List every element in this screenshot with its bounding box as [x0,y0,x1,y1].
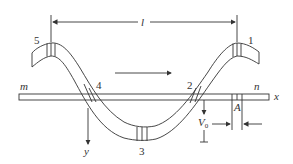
label-point-1: 1 [248,34,254,46]
rod [19,94,269,100]
wave-band [32,43,259,141]
label-x-axis: x [273,90,279,102]
label-point-5: 5 [34,34,40,46]
wavelength-dimension: l [51,15,237,42]
label-rod-m: m [20,80,28,92]
label-velocity: V0 [198,116,209,130]
label-section-a: A [233,101,241,113]
label-y-axis: y [83,145,89,157]
wave-diagram: l [0,0,293,164]
label-point-4: 4 [96,79,102,91]
label-point-2: 2 [187,79,193,91]
label-rod-n: n [254,80,260,92]
label-point-3: 3 [139,145,145,157]
wavelength-label: l [141,16,144,28]
